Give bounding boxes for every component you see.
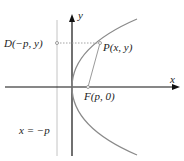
- pf-segment: [88, 43, 100, 87]
- point-p-marker: [99, 42, 102, 45]
- y-axis-label: y: [78, 10, 83, 21]
- directrix-label: x = −p: [19, 125, 50, 136]
- point-p-label: P(x, y): [103, 42, 132, 53]
- point-d-label: D(−p, y): [4, 38, 43, 49]
- point-d-marker: [56, 42, 59, 45]
- parabola-diagram: y D(−p, y) P(x, y) x F(p, 0) x = −p: [0, 0, 184, 161]
- focus-marker: [87, 86, 90, 89]
- x-axis-label: x: [170, 74, 175, 85]
- y-axis-arrow-icon: [69, 14, 75, 22]
- diagram-canvas: [0, 0, 184, 161]
- focus-label: F(p, 0): [84, 91, 115, 102]
